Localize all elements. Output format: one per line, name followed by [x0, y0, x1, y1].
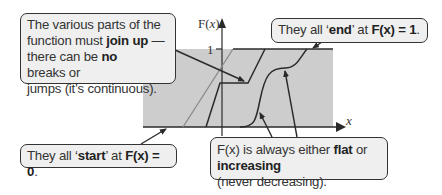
callout-flat-or-increasing: F(x) is always either flat or increasing… — [210, 137, 388, 180]
start-pointer-arrow — [141, 129, 166, 144]
callout-join-up: The various parts of the function must j… — [20, 13, 176, 84]
y-axis-label: F(x) — [198, 16, 220, 32]
x-axis-arrow-icon — [336, 122, 346, 132]
x-axis-label: x — [346, 113, 352, 129]
y-tick-1-label: 1 — [207, 42, 214, 58]
callout-end: They all ‘end’ at F(x) = 1. — [271, 18, 428, 43]
callout-start: They all ‘start’ at F(x) = 0. — [20, 144, 177, 168]
